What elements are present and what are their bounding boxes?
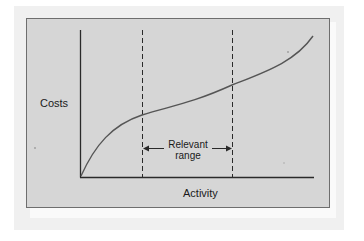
- relevant-range-label-line1: Relevant: [166, 139, 210, 150]
- y-axis-label: Costs: [40, 97, 68, 109]
- x-axis-label: Activity: [183, 187, 218, 199]
- speck: [287, 51, 289, 53]
- arrow-left-icon: [143, 146, 149, 152]
- relevant-range-label: Relevant range: [166, 139, 210, 161]
- relevant-range-label-line2: range: [166, 150, 210, 161]
- speck: [34, 147, 36, 149]
- arrow-right-icon: [226, 146, 232, 152]
- cost-chart: [0, 0, 364, 241]
- speck: [283, 162, 285, 164]
